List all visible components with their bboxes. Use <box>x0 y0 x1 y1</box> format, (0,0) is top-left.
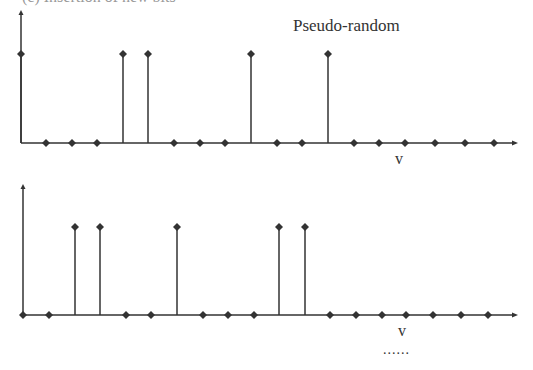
x-axis-arrow-icon <box>512 141 518 146</box>
sample-diamond-icon <box>484 311 492 319</box>
y-axis-arrow-icon <box>19 10 24 15</box>
sample-diamond-icon <box>490 139 498 147</box>
sample-diamond-icon <box>375 139 383 147</box>
sample-diamond-icon <box>68 139 76 147</box>
sample-diamond-icon <box>196 139 204 147</box>
sample-diamond-icon <box>352 311 360 319</box>
sample-diamond-icon <box>119 50 127 58</box>
stem-plots <box>0 0 533 370</box>
continuation-ellipsis: ...... <box>383 342 410 358</box>
sample-diamond-icon <box>45 311 53 319</box>
sample-diamond-icon <box>42 139 50 147</box>
sample-diamond-icon <box>275 223 283 231</box>
sample-diamond-icon <box>273 139 281 147</box>
sample-diamond-icon <box>429 311 437 319</box>
sample-diamond-icon <box>96 223 104 231</box>
sample-diamond-icon <box>350 139 358 147</box>
sample-diamond-icon <box>324 50 332 58</box>
sample-diamond-icon <box>298 139 306 147</box>
sample-diamond-icon <box>221 139 229 147</box>
sample-diamond-icon <box>378 311 386 319</box>
sample-diamond-icon <box>19 311 27 319</box>
sample-diamond-icon <box>147 311 155 319</box>
sample-diamond-icon <box>122 311 130 319</box>
sample-diamond-icon <box>326 311 334 319</box>
sample-diamond-icon <box>93 139 101 147</box>
sample-diamond-icon <box>71 223 79 231</box>
sample-diamond-icon <box>199 311 207 319</box>
x-axis-arrow-icon <box>512 313 518 318</box>
sample-diamond-icon <box>431 139 439 147</box>
sample-diamond-icon <box>17 50 25 58</box>
sample-diamond-icon <box>144 50 152 58</box>
sample-diamond-icon <box>173 223 181 231</box>
sample-diamond-icon <box>170 139 178 147</box>
sample-diamond-icon <box>402 311 410 319</box>
sample-diamond-icon <box>401 139 409 147</box>
sample-diamond-icon <box>247 50 255 58</box>
sample-diamond-icon <box>461 139 469 147</box>
sample-diamond-icon <box>301 223 309 231</box>
x-axis-label-bottom: v <box>398 322 406 340</box>
plot-title-pseudo-random: Pseudo-random <box>293 16 400 36</box>
sample-diamond-icon <box>224 311 232 319</box>
sample-diamond-icon <box>457 311 465 319</box>
y-axis-arrow-icon <box>21 184 26 189</box>
sample-diamond-icon <box>250 311 258 319</box>
x-axis-label-top: v <box>395 150 403 168</box>
